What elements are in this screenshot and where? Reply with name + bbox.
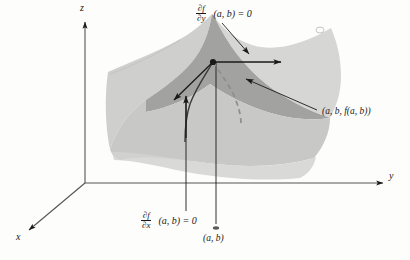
saddle-surface bbox=[106, 14, 341, 180]
saddle-point-marker bbox=[210, 59, 216, 65]
base-point-label: (a, b) bbox=[203, 234, 224, 244]
partial-x-tail: (a, b) = 0 bbox=[155, 216, 196, 226]
critical-point-label: (a, b, f(a, b)) bbox=[322, 107, 371, 117]
x-axis-label: x bbox=[16, 232, 20, 242]
partial-x-denominator: ∂x bbox=[141, 221, 151, 230]
saddle-point-diagram: z y x ∂f ∂y (a, b) = 0 ∂f ∂x (a, b) = 0 … bbox=[0, 0, 410, 260]
base-point-marker bbox=[213, 226, 219, 229]
surface-highlight bbox=[316, 27, 324, 33]
partial-y-fraction: ∂f ∂y bbox=[196, 4, 206, 24]
partial-x-fraction: ∂f ∂x bbox=[141, 211, 151, 231]
partial-y-denominator: ∂y bbox=[196, 14, 206, 23]
z-axis-label: z bbox=[80, 3, 84, 13]
x-axis bbox=[29, 183, 85, 230]
partial-derivative-x-annotation: ∂f ∂x (a, b) = 0 bbox=[141, 211, 197, 231]
diagram-canvas bbox=[0, 0, 410, 260]
partial-y-tail: (a, b) = 0 bbox=[210, 9, 251, 19]
partial-derivative-y-annotation: ∂f ∂y (a, b) = 0 bbox=[196, 4, 252, 24]
y-axis-label: y bbox=[389, 171, 393, 181]
